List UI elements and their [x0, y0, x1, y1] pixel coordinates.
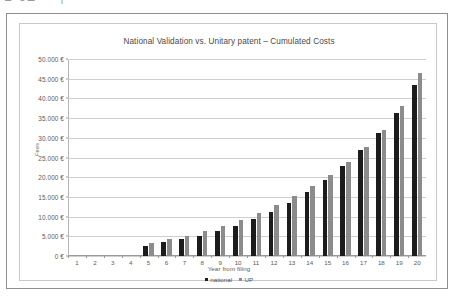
bar-national-year-9: [215, 231, 220, 256]
figure-outer-frame: National Validation vs. Unitary patent –…: [6, 13, 448, 289]
bar-UP-year-20: [418, 73, 423, 256]
bar-UP-year-8: [203, 231, 208, 256]
y-axis-tick-label: 25.000 €: [38, 154, 64, 161]
x-axis-tick-mark: [140, 256, 141, 258]
bar-UP-year-13: [292, 196, 297, 256]
bar-national-year-6: [161, 242, 166, 256]
bar-national-year-10: [233, 226, 238, 256]
bar-national-year-16: [340, 166, 345, 256]
bar-group: 14: [301, 59, 319, 256]
bar-group: 16: [337, 59, 355, 256]
y-axis-tick-label: 10.000 €: [38, 213, 64, 220]
x-axis-tick-mark: [211, 256, 212, 258]
scanned-text-glyphs: ⊔ ᴜ⊐⌐⌐┐ ⌐⌐ ⌐⌐ ⌐⌐ ⌐⌐⌐ ⌐⌐ ⌐ ⌐⌐ ⌐⌐: [4, 0, 276, 4]
bar-group: 8: [193, 59, 211, 256]
bar-group: 10: [229, 59, 247, 256]
legend-entry-national[interactable]: national: [205, 276, 232, 283]
bar-national-year-15: [323, 180, 328, 256]
bar-series-group: 1234567891011121314151617181920: [68, 59, 426, 256]
x-axis-tick-mark: [355, 256, 356, 258]
y-axis-tick-label: 20.000 €: [38, 174, 64, 181]
bar-UP-year-18: [382, 130, 387, 256]
bar-group: 13: [283, 59, 301, 256]
x-axis-tick-mark: [86, 256, 87, 258]
chart-title: National Validation vs. Unitary patent –…: [20, 37, 438, 46]
x-axis-tick-mark: [372, 256, 373, 258]
bar-UP-year-14: [310, 186, 315, 256]
bar-group: 6: [158, 59, 176, 256]
y-axis-tick-label: 0 €: [55, 253, 64, 260]
legend-swatch-national: [205, 278, 208, 281]
bar-UP-year-15: [328, 175, 333, 256]
bar-UP-year-12: [274, 205, 279, 256]
bar-national-year-18: [376, 133, 381, 256]
y-axis-tick-label: 50.000 €: [38, 56, 64, 63]
legend-label-national: national: [210, 276, 232, 283]
x-axis-tick-mark: [158, 256, 159, 258]
bar-group: 2: [86, 59, 104, 256]
bar-group: 4: [122, 59, 140, 256]
bar-UP-year-9: [221, 226, 226, 256]
chart-container: National Validation vs. Unitary patent –…: [19, 23, 437, 281]
y-axis-tick-label: 5.000 €: [42, 233, 64, 240]
x-axis-tick-mark: [390, 256, 391, 258]
legend-entry-UP[interactable]: UP: [239, 276, 253, 283]
bar-national-year-20: [412, 85, 417, 256]
y-axis-tick-label: 35.000 €: [38, 115, 64, 122]
bar-group: 1: [68, 59, 86, 256]
bar-group: 15: [319, 59, 337, 256]
plot-area: 50.000 €45.000 €40.000 €35.000 €30.000 €…: [68, 59, 426, 256]
y-axis-tick-label: 40.000 €: [38, 95, 64, 102]
bar-national-year-14: [305, 192, 310, 256]
bar-group: 18: [372, 59, 390, 256]
bar-UP-year-6: [167, 239, 172, 256]
x-axis-tick-mark: [337, 256, 338, 258]
y-axis-tick-label: 30.000 €: [38, 134, 64, 141]
bar-group: 20: [408, 59, 426, 256]
bar-group: 17: [355, 59, 373, 256]
bar-national-year-8: [197, 236, 202, 256]
bar-national-year-17: [358, 150, 363, 256]
bar-group: 3: [104, 59, 122, 256]
x-axis-tick-mark: [68, 256, 69, 258]
x-axis-tick-mark: [229, 256, 230, 258]
bar-national-year-7: [179, 239, 184, 256]
bar-group: 7: [175, 59, 193, 256]
bar-UP-year-10: [239, 220, 244, 256]
bar-group: 11: [247, 59, 265, 256]
bar-national-year-5: [143, 246, 148, 256]
bar-UP-year-7: [185, 236, 190, 256]
legend-label-UP: UP: [244, 276, 253, 283]
scanned-top-text-fragment: ⊔ ᴜ⊐⌐⌐┐ ⌐⌐ ⌐⌐ ⌐⌐ ⌐⌐⌐ ⌐⌐ ⌐ ⌐⌐ ⌐⌐: [0, 0, 462, 11]
x-axis-tick-mark: [122, 256, 123, 258]
bar-group: 9: [211, 59, 229, 256]
bar-national-year-12: [269, 212, 274, 256]
bar-UP-year-5: [149, 243, 154, 256]
x-axis-tick-mark: [265, 256, 266, 258]
bar-UP-year-11: [257, 213, 262, 256]
bar-group: 5: [140, 59, 158, 256]
x-axis-tick-mark: [193, 256, 194, 258]
bar-group: 19: [390, 59, 408, 256]
bar-national-year-11: [251, 219, 256, 256]
y-axis-tick-label: 45.000 €: [38, 75, 64, 82]
x-axis-tick-mark: [408, 256, 409, 258]
y-axis-tick-label: 15.000 €: [38, 193, 64, 200]
x-axis-tick-mark: [301, 256, 302, 258]
bar-UP-year-17: [364, 147, 369, 256]
x-axis-tick-mark: [247, 256, 248, 258]
chart-legend: nationalUP: [20, 276, 438, 283]
x-axis-tick-mark: [104, 256, 105, 258]
legend-swatch-UP: [239, 278, 242, 281]
bar-group: 12: [265, 59, 283, 256]
bar-national-year-13: [287, 203, 292, 256]
x-axis-tick-mark: [175, 256, 176, 258]
x-axis-title: Year from filing: [20, 265, 438, 272]
x-axis-tick-mark: [319, 256, 320, 258]
bar-national-year-19: [394, 113, 399, 256]
bar-UP-year-16: [346, 162, 351, 256]
bar-UP-year-19: [400, 106, 405, 256]
x-axis-tick-mark: [283, 256, 284, 258]
